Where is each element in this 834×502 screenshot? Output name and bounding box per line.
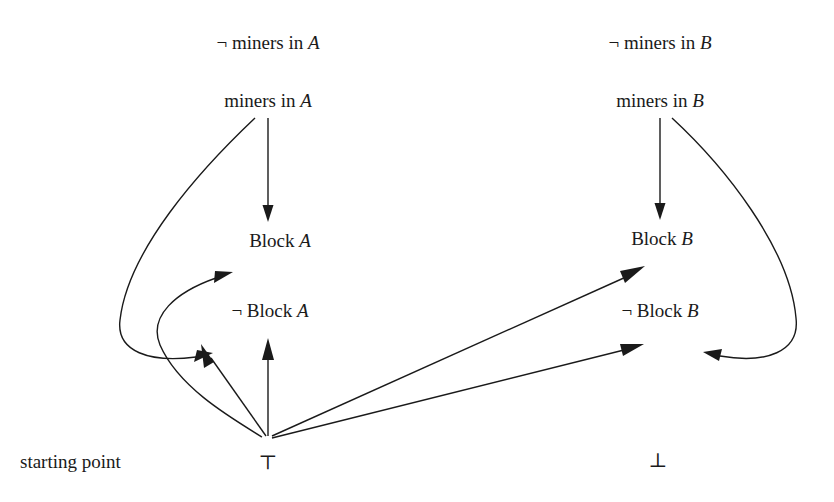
node-label-block-a: Block A bbox=[249, 231, 311, 250]
node-text-miners-b: miners in bbox=[616, 90, 692, 111]
node-var-miners-b: B bbox=[692, 90, 704, 111]
edge-top-to-not-block-a-line bbox=[201, 344, 266, 436]
node-label-not-block-b: ¬ Block B bbox=[621, 301, 698, 320]
edge-top-to-block-b bbox=[272, 266, 645, 436]
node-text-miners-a: miners in bbox=[224, 90, 300, 111]
edge-miners-a-to-block-a bbox=[263, 118, 274, 222]
node-symbol-top-verum: ⊤ bbox=[259, 452, 278, 472]
node-label-not-miners-a: ¬ miners in A bbox=[216, 33, 319, 52]
node-text-not-block-a: ¬ Block bbox=[231, 300, 297, 321]
node-text-not-miners-b: ¬ miners in bbox=[608, 32, 699, 53]
starting-point-label: starting point bbox=[20, 452, 121, 471]
node-label-not-miners-b: ¬ miners in B bbox=[608, 33, 711, 52]
node-var-not-block-b: B bbox=[687, 300, 699, 321]
node-var-not-miners-b: B bbox=[700, 32, 712, 53]
node-text-block-a: Block bbox=[249, 230, 299, 251]
diagram-canvas: ¬ miners in A miners in A ¬ miners in B … bbox=[0, 0, 834, 502]
edge-top-to-block-a bbox=[157, 271, 262, 437]
node-var-not-block-a: A bbox=[297, 300, 309, 321]
node-label-block-b: Block B bbox=[631, 229, 693, 248]
node-text-not-block-b: ¬ Block bbox=[621, 300, 687, 321]
node-text-block-b: Block bbox=[631, 228, 681, 249]
diagram-edges-layer bbox=[0, 0, 834, 502]
edge-top-to-not-block-b bbox=[272, 344, 644, 438]
edge-miners-b-to-block-b bbox=[655, 118, 666, 220]
node-symbol-bottom-falsum: ⊥ bbox=[649, 450, 668, 470]
node-var-block-a: A bbox=[299, 230, 311, 251]
node-label-not-block-a: ¬ Block A bbox=[231, 301, 308, 320]
edge-top-to-not-block-a-vert bbox=[262, 338, 274, 436]
node-var-block-b: B bbox=[681, 228, 693, 249]
node-text-not-miners-a: ¬ miners in bbox=[216, 32, 307, 53]
node-label-miners-b: miners in B bbox=[616, 91, 704, 110]
edge-miners-a-to-not-block-a bbox=[120, 118, 255, 362]
node-var-not-miners-a: A bbox=[308, 32, 320, 53]
node-var-miners-a: A bbox=[300, 90, 312, 111]
node-label-miners-a: miners in A bbox=[224, 91, 312, 110]
